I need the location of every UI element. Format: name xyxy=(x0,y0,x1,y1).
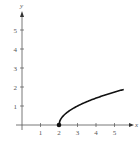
y-axis-arrow-icon xyxy=(20,11,24,17)
x-tick-label: 4 xyxy=(94,129,98,137)
chart: x y 1234512345 xyxy=(0,0,139,150)
x-tick-label: 5 xyxy=(113,129,117,137)
curve-sqrt xyxy=(59,89,124,125)
y-tick-label: 2 xyxy=(14,84,18,92)
x-tick-label: 2 xyxy=(57,129,61,137)
endpoint-marker xyxy=(57,123,62,128)
y-tick-label: 1 xyxy=(14,103,18,111)
y-axis-label: y xyxy=(19,2,24,10)
x-tick-label: 1 xyxy=(39,129,43,137)
x-tick-label: 3 xyxy=(76,129,80,137)
x-axis-label: x xyxy=(134,121,139,129)
y-tick-label: 4 xyxy=(14,46,18,54)
y-tick-label: 5 xyxy=(14,27,18,35)
x-axis-arrow-icon xyxy=(129,123,134,127)
y-tick-label: 3 xyxy=(14,65,18,73)
